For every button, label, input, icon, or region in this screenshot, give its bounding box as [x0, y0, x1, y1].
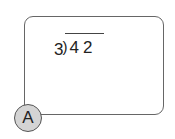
long-division-problem: 3)42	[54, 35, 104, 60]
dividend: 42	[65, 33, 104, 58]
answer-box	[24, 16, 164, 115]
choice-badge[interactable]: A	[14, 104, 42, 132]
